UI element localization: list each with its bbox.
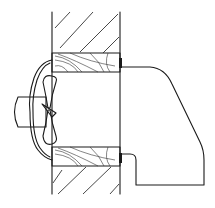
wall (52, 12, 120, 194)
sleeve-top (52, 53, 120, 72)
diagram-svg (0, 0, 215, 208)
wall-hatch-bottom (53, 167, 119, 194)
sleeve-bottom (52, 147, 120, 166)
fan-diagram (0, 0, 215, 208)
fan-blade (42, 76, 57, 145)
wall-hatch-top (55, 12, 119, 53)
hood (119, 58, 204, 185)
